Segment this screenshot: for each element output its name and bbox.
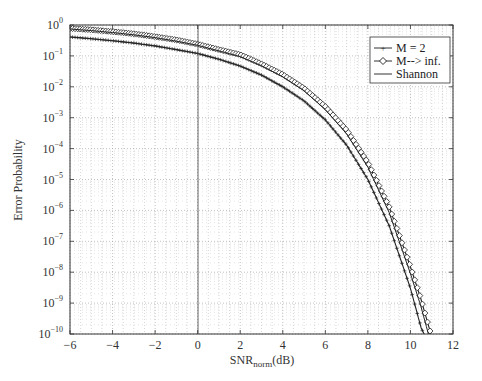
y-tick-label: 10−3 [42,109,63,125]
plus-marker [410,293,414,297]
plus-marker [160,45,164,49]
y-tick-label: 10−10 [38,325,63,341]
x-tick-label: 6 [322,338,328,352]
plus-marker [400,261,404,265]
legend: + M = 2 M--> inf. Shannon [370,37,450,83]
plus-marker [204,54,208,58]
plus-marker [221,59,225,63]
legend-label-minf: M--> inf. [396,54,441,68]
plus-marker [369,185,373,189]
y-tick-label: 10−7 [42,232,63,248]
plus-marker [175,48,179,52]
plus-marker [214,57,218,61]
plus-marker [385,218,389,222]
plus-marker [423,334,427,338]
y-tick-label: 10−1 [42,47,63,63]
x-tick-label: 10 [404,338,416,352]
error-probability-chart: −6−4−2024681012 10010−110−210−310−410−51… [0,0,482,381]
x-tick-label: 8 [365,338,371,352]
plus-marker [377,202,381,206]
x-tick-label: −4 [106,338,119,352]
y-tick-label: 10−8 [42,263,63,279]
plus-marker [186,50,190,54]
x-tick-label: −6 [64,338,77,352]
x-axis-label: SNRnorm(dB) [230,353,294,369]
y-tick-label: 10−6 [42,201,63,217]
plus-marker [193,51,197,55]
plus-marker [188,50,192,54]
y-tick-label: 10−5 [42,171,63,187]
plus-marker [224,60,228,64]
x-tick-label: 4 [280,338,286,352]
plus-marker [405,277,409,281]
plus-marker [237,64,241,68]
x-tick-label: 2 [237,338,243,352]
plus-marker [173,48,177,52]
plus-marker [219,58,223,62]
plus-marker [198,52,202,56]
y-tick-label: 10−9 [42,294,63,310]
plus-marker [372,191,376,195]
plus-marker [183,49,187,53]
y-axis-label: Error Probability [11,139,25,221]
plus-marker [168,47,172,51]
y-tick-label: 10−4 [42,140,63,156]
legend-label-shannon: Shannon [396,67,438,81]
plus-marker [392,239,396,243]
plus-marker [181,49,185,53]
plus-marker [155,44,159,48]
y-tick-label: 10−2 [42,78,63,94]
plus-marker-icon: + [380,43,385,53]
legend-label-m2: M = 2 [396,41,425,55]
x-tick-label: −2 [149,338,162,352]
plus-marker [191,51,195,55]
plus-marker [234,63,238,67]
plus-marker [152,44,156,48]
plus-marker [170,47,174,51]
plus-marker [216,57,220,61]
plus-marker [158,45,162,49]
y-tick-label: 100 [47,16,63,32]
plus-marker [418,321,422,325]
plus-marker [387,224,391,228]
plus-marker [398,254,402,258]
plus-marker [201,53,205,57]
plus-marker [178,48,182,52]
plus-marker [395,246,399,250]
x-tick-label: 12 [447,338,459,352]
plus-marker [227,60,231,64]
x-tick-label: 0 [195,338,201,352]
plus-marker [375,196,379,200]
